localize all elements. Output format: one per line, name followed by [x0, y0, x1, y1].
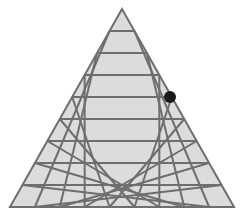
marker-dot: [164, 91, 176, 103]
triangular-grid-diagram: [0, 0, 244, 222]
outer-triangle: [10, 9, 234, 207]
